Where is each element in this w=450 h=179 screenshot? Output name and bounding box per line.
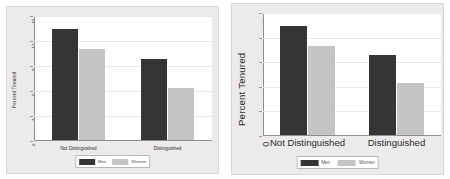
bar-women-distinguished (168, 88, 195, 141)
legend-swatch-men (300, 160, 318, 166)
legend-left: Men Women (75, 155, 151, 168)
gridline (263, 13, 441, 14)
y-tick-mark (30, 16, 33, 17)
category-label: Not Distinguished (263, 137, 352, 148)
gridline (34, 16, 212, 17)
chart-figure: Percent Tenured 03691215 Not Distinguish… (0, 0, 450, 179)
legend-item-women: Women (112, 159, 146, 165)
y-tick-mark (259, 62, 262, 63)
legend-swatch-women (112, 159, 128, 165)
y-tick-mark (30, 41, 33, 42)
y-axis-line-right (263, 13, 264, 136)
legend-swatch-men (79, 159, 95, 165)
y-tick-mark (259, 136, 262, 137)
category-label: Distinguished (123, 146, 212, 151)
legend-label-men: Men (98, 159, 107, 164)
category-label: Distinguished (352, 137, 441, 148)
legend-item-men: Men (79, 159, 107, 165)
bar-men-not-distinguished (52, 29, 79, 140)
y-tick-mark (30, 66, 33, 67)
bar-men-distinguished (141, 59, 168, 140)
x-axis-categories-right: Not Distinguished Distinguished (263, 137, 441, 148)
plot-area-left (34, 16, 212, 141)
legend-label-women: Women (131, 159, 146, 164)
x-axis-line-left (34, 140, 212, 141)
y-axis-ticks-right: 03691215 (246, 4, 262, 174)
category-label: Not Distinguished (34, 146, 123, 151)
y-tick-mark (30, 91, 33, 92)
y-axis-title-left: Percent Tenured (7, 7, 21, 173)
legend-item-men: Men (300, 160, 330, 166)
chart-panel-right: Percent Tenured 03691215 Not Distinguish… (231, 3, 444, 175)
legend-label-men: Men (321, 160, 330, 165)
y-tick-mark (30, 141, 33, 142)
y-tick-mark (259, 13, 262, 14)
y-axis-ticks-left: 03691215 (21, 7, 33, 173)
bar-women-distinguished (397, 83, 425, 135)
x-axis-categories-left: Not Distinguished Distinguished (34, 146, 212, 151)
chart-panel-left: Percent Tenured 03691215 Not Distinguish… (6, 6, 219, 174)
legend-item-women: Women (338, 160, 375, 166)
plot-area-right (263, 13, 441, 136)
y-tick-mark (259, 38, 262, 39)
y-tick-mark (259, 87, 262, 88)
y-axis-line-left (34, 16, 35, 141)
y-tick-mark (30, 116, 33, 117)
legend-right: Men Women (296, 156, 379, 169)
legend-label-women: Women (359, 160, 375, 165)
y-tick-mark (259, 111, 262, 112)
legend-swatch-women (338, 160, 356, 166)
bar-men-not-distinguished (280, 26, 308, 135)
bar-women-not-distinguished (79, 49, 106, 140)
x-axis-line-right (263, 135, 441, 136)
bar-women-not-distinguished (308, 46, 336, 135)
bar-men-distinguished (369, 55, 397, 135)
